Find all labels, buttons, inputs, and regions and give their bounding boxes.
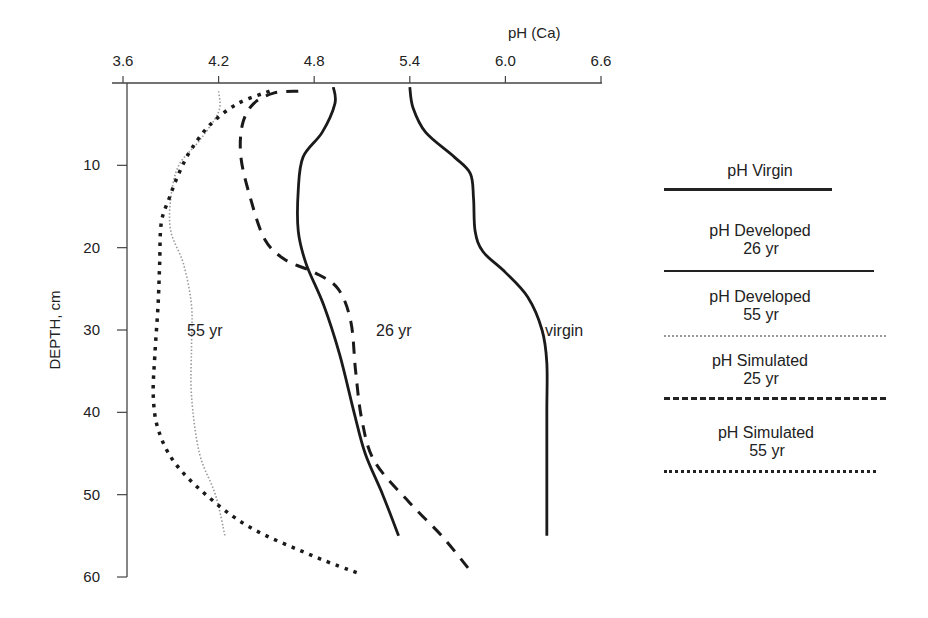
legend-sublabel: 26 yr <box>660 240 860 258</box>
y-tick-label: 60 <box>83 568 100 585</box>
legend-item-virgin: pH Virgin <box>660 160 900 222</box>
x-tick-label: 3.6 <box>113 52 134 69</box>
legend-sublabel: 55 yr <box>660 306 860 324</box>
legend: pH Virgin pH Developed 26 yr pH Develope… <box>660 160 900 534</box>
legend-line-grey-dotted <box>664 335 886 337</box>
y-tick-label: 10 <box>83 156 100 173</box>
y-tick-label: 40 <box>83 403 100 420</box>
y-ticks: 102030405060 <box>83 156 127 585</box>
x-tick-label: 5.4 <box>399 52 420 69</box>
series-line-ph-virgin <box>410 87 547 536</box>
annotation-virgin: virgin <box>545 322 583 339</box>
legend-label: pH Virgin <box>660 162 860 180</box>
legend-line-dashed <box>664 397 886 400</box>
x-tick-label: 6.0 <box>495 52 516 69</box>
x-axis-title: pH (Ca) <box>508 24 561 41</box>
legend-item-simulated-55: pH Simulated 55 yr <box>660 472 900 534</box>
annotation-55yr: 55 yr <box>187 322 223 339</box>
axes <box>112 83 602 577</box>
legend-label: pH Simulated <box>666 424 866 442</box>
legend-line-solid <box>664 188 832 191</box>
legend-label: pH Developed <box>660 222 860 240</box>
series-line-ph-simulated-55-yr <box>153 91 357 573</box>
y-tick-label: 30 <box>83 321 100 338</box>
legend-sublabel: 25 yr <box>660 370 860 388</box>
y-axis-title: DEPTH, cm <box>46 290 63 369</box>
annotation-26yr: 26 yr <box>376 322 412 339</box>
x-ticks: 3.64.24.85.46.06.6 <box>113 52 612 83</box>
legend-line-dotted <box>664 470 876 473</box>
legend-line-solid <box>664 270 874 272</box>
series-line-ph-developed-55-yr <box>169 91 224 536</box>
legend-sublabel: 55 yr <box>666 442 866 460</box>
legend-label: pH Developed <box>660 288 860 306</box>
y-tick-label: 20 <box>83 239 100 256</box>
legend-label: pH Simulated <box>660 352 860 370</box>
x-tick-label: 4.8 <box>304 52 325 69</box>
y-tick-label: 50 <box>83 486 100 503</box>
series-line-ph-simulated-25-yr <box>240 91 468 569</box>
x-tick-label: 6.6 <box>591 52 612 69</box>
x-tick-label: 4.2 <box>208 52 229 69</box>
